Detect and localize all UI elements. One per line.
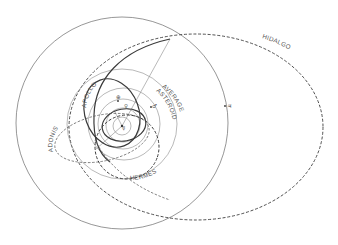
adonis-label: ADONIS xyxy=(46,124,59,152)
jupiter-orbit xyxy=(16,17,228,229)
mercury-symbol-icon: ☿ xyxy=(122,125,125,131)
hidalgo-orbit xyxy=(69,34,323,220)
earth-position xyxy=(117,100,119,102)
hermes-label-path: HERMES xyxy=(130,167,158,181)
average-asteroid-orbit xyxy=(67,69,177,179)
radius-line xyxy=(122,39,170,126)
hidalgo-label-path: HIDALGO xyxy=(262,32,293,50)
mars-symbol-icon: ♂ xyxy=(152,103,157,109)
adonis-label-path: ADONIS xyxy=(46,124,59,152)
jupiter-position xyxy=(224,105,226,107)
hermes-tail xyxy=(95,140,170,200)
radius-line-3 xyxy=(114,110,122,126)
jupiter-symbol-icon: ♃ xyxy=(227,103,232,109)
venus-symbol-icon: ♀ xyxy=(124,103,128,109)
asteroid-orbits-diagram: ♃ ♂ ⊕ ♀ ☿ HIDALGO APOLLO ADONIS HERMES A… xyxy=(0,0,338,245)
earth-symbol-icon: ⊕ xyxy=(116,94,121,100)
hermes-label: HERMES xyxy=(130,167,158,181)
hidalgo-label: HIDALGO xyxy=(262,32,293,50)
